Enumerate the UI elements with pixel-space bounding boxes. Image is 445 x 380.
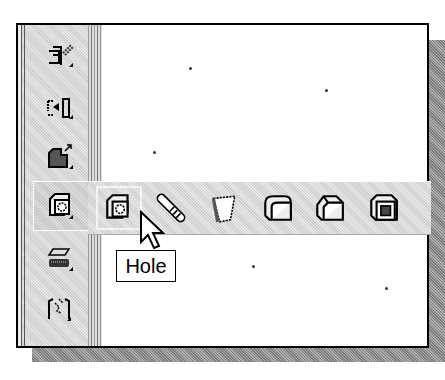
sketch-insert-icon — [45, 41, 75, 71]
cad-window — [16, 23, 429, 348]
pattern-icon — [45, 293, 75, 323]
feature-toolbar — [18, 25, 98, 346]
hole-tooltip: Hole — [116, 250, 176, 282]
flyout-button-hole[interactable] — [96, 186, 142, 230]
toolbar-button-sketch[interactable] — [39, 35, 81, 77]
shell-plane-icon — [45, 243, 75, 273]
chamfer-icon — [313, 192, 345, 224]
move-copy-icon — [45, 93, 75, 123]
grid-point — [153, 151, 156, 154]
toolbar-button-pattern[interactable] — [39, 287, 81, 329]
feature-extrude-icon — [45, 141, 75, 171]
grid-point — [325, 89, 328, 92]
grid-point — [252, 265, 255, 268]
toolbar-button-move[interactable] — [39, 87, 81, 129]
draft-icon — [207, 192, 239, 224]
hole-icon — [103, 192, 135, 224]
flyout-button-shell[interactable] — [360, 186, 406, 230]
toolbar-button-hole[interactable] — [33, 181, 89, 231]
shell-icon — [367, 192, 399, 224]
grid-point — [189, 67, 192, 70]
grid-point — [385, 287, 388, 290]
toolbar-edge — [21, 25, 25, 346]
flyout-button-draft[interactable] — [200, 186, 246, 230]
toolbar-button-shell[interactable] — [39, 237, 81, 279]
toolbar-button-extrude[interactable] — [39, 135, 81, 177]
flyout-button-fillet[interactable] — [254, 186, 300, 230]
hole-icon — [46, 191, 76, 221]
fillet-icon — [261, 192, 293, 224]
flyout-button-chamfer[interactable] — [306, 186, 352, 230]
